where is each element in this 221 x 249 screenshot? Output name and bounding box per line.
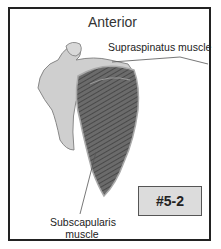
supraspinatus-pointer xyxy=(112,57,208,64)
figure-title: Anterior xyxy=(88,14,137,30)
subscapularis-label-line2: muscle xyxy=(50,228,114,240)
subscapularis-pointer xyxy=(80,152,96,214)
figure-number-badge: #5-2 xyxy=(138,186,202,216)
supraspinatus-label: Supraspinatus muscle xyxy=(108,41,211,53)
subscapularis-label-line1: Subscapularis xyxy=(50,216,114,228)
subscapularis-label: Subscapularis muscle xyxy=(50,216,114,240)
